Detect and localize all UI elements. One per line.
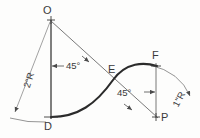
drawing-canvas: O D E F P 2"R 1"R 45° 45° — [0, 0, 200, 138]
radius-line-left — [15, 22, 50, 112]
angle-label-left: 45° — [66, 61, 80, 71]
point-label-o: O — [43, 5, 52, 16]
point-label-d: D — [44, 121, 52, 132]
ogee-curve — [51, 64, 157, 117]
geometry-svg — [0, 0, 200, 138]
point-label-f: F — [152, 50, 159, 61]
angle-label-right: 45° — [117, 88, 131, 98]
arc-radius-left — [10, 118, 46, 122]
point-marker-o — [47, 16, 55, 24]
angle-left-tick — [82, 56, 89, 62]
angle-right-tick — [124, 104, 132, 110]
point-label-p: P — [161, 112, 169, 123]
point-label-e: E — [108, 64, 116, 75]
